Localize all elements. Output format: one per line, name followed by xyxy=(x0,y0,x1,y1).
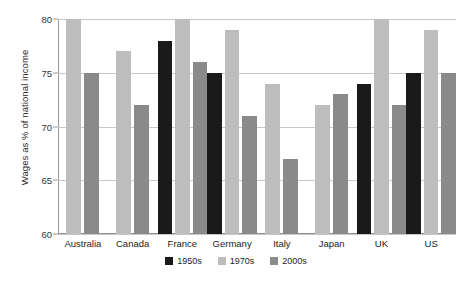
bar-france-1970s xyxy=(175,19,190,234)
bar-us-2000s xyxy=(441,73,456,234)
legend-swatch-1970s xyxy=(218,257,226,265)
bar-group-australia xyxy=(58,19,108,234)
bar-germany-2000s xyxy=(242,116,257,234)
legend-item-1950s: 1950s xyxy=(165,256,202,266)
x-tick-label-italy: Italy xyxy=(273,238,290,249)
bar-group-canada xyxy=(108,19,158,234)
y-axis-title: Wages as % of national income xyxy=(19,18,30,218)
bar-us-1970s xyxy=(424,30,439,234)
legend-item-1970s: 1970s xyxy=(218,256,255,266)
plot-area: 6065707580AustraliaCanadaFranceGermanyIt… xyxy=(58,19,456,234)
bar-italy-1970s xyxy=(265,84,280,235)
legend-label-1950s: 1950s xyxy=(177,256,202,266)
bar-group-us xyxy=(406,19,456,234)
bar-canada-2000s xyxy=(134,105,149,234)
bar-uk-2000s xyxy=(392,105,407,234)
y-tick-label-80: 80 xyxy=(41,14,52,25)
bar-uk-1970s xyxy=(374,19,389,234)
bar-australia-2000s xyxy=(84,73,99,234)
legend-swatch-1950s xyxy=(165,257,173,265)
bar-group-japan xyxy=(307,19,357,234)
bar-france-2000s xyxy=(193,62,208,234)
bar-us-1950s xyxy=(406,73,421,234)
bar-canada-1970s xyxy=(116,51,131,234)
bar-japan-1970s xyxy=(315,105,330,234)
y-tick-label-70: 70 xyxy=(41,121,52,132)
bar-group-germany xyxy=(207,19,257,234)
x-tick-label-japan: Japan xyxy=(319,238,345,249)
legend-swatch-2000s xyxy=(270,257,278,265)
legend-label-2000s: 2000s xyxy=(282,256,307,266)
bar-group-uk xyxy=(357,19,407,234)
bar-italy-2000s xyxy=(283,159,298,234)
x-tick-label-france: France xyxy=(168,238,198,249)
x-tick-label-uk: UK xyxy=(375,238,388,249)
bar-germany-1950s xyxy=(207,73,222,234)
y-tick-label-75: 75 xyxy=(41,67,52,78)
chart-legend: 1950s1970s2000s xyxy=(0,256,472,266)
x-tick-label-germany: Germany xyxy=(213,238,252,249)
bar-japan-2000s xyxy=(333,94,348,234)
bar-uk-1950s xyxy=(357,84,372,235)
legend-item-2000s: 2000s xyxy=(270,256,307,266)
legend-label-1970s: 1970s xyxy=(230,256,255,266)
y-tick-label-60: 60 xyxy=(41,229,52,240)
x-tick-label-canada: Canada xyxy=(116,238,149,249)
x-tick-label-australia: Australia xyxy=(64,238,101,249)
bar-group-italy xyxy=(257,19,307,234)
bar-group-france xyxy=(158,19,208,234)
x-tick-label-us: US xyxy=(425,238,438,249)
bar-france-1950s xyxy=(158,41,173,235)
bar-australia-1970s xyxy=(66,19,81,234)
y-tick-label-65: 65 xyxy=(41,175,52,186)
bar-germany-1970s xyxy=(225,30,240,234)
wages-share-bar-chart: Wages as % of national income 6065707580… xyxy=(0,0,472,281)
gridline-60 xyxy=(58,234,456,235)
